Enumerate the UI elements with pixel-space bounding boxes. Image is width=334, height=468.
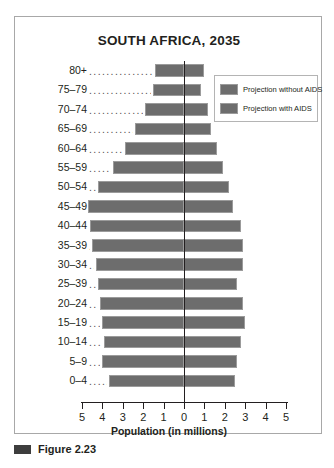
label-dot-leader: ........................................… [89, 119, 133, 138]
age-group-label: 65–69 [15, 119, 87, 138]
bar-projection-with-aids [184, 316, 245, 329]
bar-projection-without-aids [88, 200, 184, 213]
age-group-label: 10–14 [15, 332, 87, 351]
x-axis-tick [286, 402, 287, 409]
chart-legend: Projection without AIDS Projection with … [214, 75, 318, 122]
bar-projection-without-aids [113, 161, 184, 174]
label-dot-leader: ........................................… [89, 294, 98, 313]
bar-projection-without-aids [153, 84, 184, 97]
age-group-label: 25–39 [15, 274, 87, 293]
bar-projection-with-aids [184, 355, 237, 368]
bar-projection-without-aids [155, 64, 184, 77]
bar-projection-with-aids [184, 161, 223, 174]
legend-swatch-icon [220, 103, 238, 114]
x-axis-tick-label: 4 [94, 411, 110, 423]
age-group-label: 60–64 [15, 139, 87, 158]
age-group-label: 0–4 [15, 371, 87, 390]
label-dot-leader: ........................................… [89, 313, 100, 332]
x-axis-tick [143, 402, 144, 409]
pyramid-row: 30–34...................................… [15, 255, 323, 274]
x-axis-tick-label: 5 [74, 411, 90, 423]
x-axis-tick-label: 4 [258, 411, 274, 423]
label-dot-leader: ........................................… [89, 100, 143, 119]
label-dot-leader: ........................................… [89, 352, 100, 371]
label-dot-leader: ........................................… [89, 139, 123, 158]
age-group-label: 70–74 [15, 100, 87, 119]
label-dot-leader: ........................................… [89, 61, 153, 80]
pyramid-row: 50–54...................................… [15, 177, 323, 196]
pyramid-row: 15–19...................................… [15, 313, 323, 332]
x-axis-tick-label: 5 [278, 411, 294, 423]
x-axis-tick-label: 3 [115, 411, 131, 423]
bar-projection-with-aids [184, 181, 229, 194]
label-dot-leader: ........................................… [89, 274, 96, 293]
bar-projection-with-aids [184, 258, 243, 271]
age-group-label: 30–34 [15, 255, 87, 274]
pyramid-row: 40–44...................................… [15, 216, 323, 235]
x-axis-tick [204, 402, 205, 409]
label-dot-leader: ........................................… [89, 371, 107, 390]
bar-projection-without-aids [98, 278, 184, 291]
bar-projection-with-aids [184, 64, 204, 77]
pyramid-row: 55–59...................................… [15, 158, 323, 177]
x-axis-tick-label: 2 [135, 411, 151, 423]
bar-projection-with-aids [184, 142, 217, 155]
age-group-label: 40–44 [15, 216, 87, 235]
x-axis-tick-label: 0 [176, 411, 192, 423]
legend-item-without-aids: Projection without AIDS [220, 81, 313, 97]
bar-projection-with-aids [184, 297, 243, 310]
label-dot-leader: ........................................… [89, 80, 151, 99]
figure-caption: Figure 2.23 [14, 443, 96, 455]
bar-projection-without-aids [100, 297, 184, 310]
bar-projection-without-aids [90, 220, 184, 233]
legend-swatch-icon [220, 84, 238, 95]
bar-projection-without-aids [125, 142, 184, 155]
pyramid-row: 5–9.....................................… [15, 352, 323, 371]
age-group-label: 50–54 [15, 177, 87, 196]
filled-square-icon [14, 445, 31, 454]
bar-projection-with-aids [184, 336, 241, 349]
x-axis-tick-label: 2 [217, 411, 233, 423]
legend-label: Projection without AIDS [243, 85, 322, 94]
x-axis-tick [266, 402, 267, 409]
age-group-label: 15–19 [15, 313, 87, 332]
pyramid-row: 0–4.....................................… [15, 371, 323, 390]
bar-projection-without-aids [92, 239, 184, 252]
bar-projection-with-aids [184, 84, 201, 97]
pyramid-row: 60–64...................................… [15, 139, 323, 158]
pyramid-row: 25–39...................................… [15, 274, 323, 293]
legend-item-with-aids: Projection with AIDS [220, 100, 313, 116]
age-group-label: 35–39 [15, 236, 87, 255]
center-axis-line [184, 61, 185, 402]
x-axis-tick [164, 402, 165, 409]
x-axis-tick-label: 1 [196, 411, 212, 423]
label-dot-leader: ........................................… [89, 236, 90, 255]
bar-projection-with-aids [184, 278, 237, 291]
legend-label: Projection with AIDS [243, 104, 312, 113]
x-axis-tick-label: 3 [237, 411, 253, 423]
label-dot-leader: ........................................… [89, 332, 102, 351]
bar-projection-without-aids [102, 355, 184, 368]
pyramid-row: 35–39...................................… [15, 236, 323, 255]
bar-projection-without-aids [109, 375, 184, 388]
bar-projection-with-aids [184, 239, 243, 252]
x-axis-tick [123, 402, 124, 409]
bar-projection-without-aids [145, 103, 184, 116]
x-axis-tick-labels: 54321012345 [15, 411, 323, 425]
pyramid-row: 65–69...................................… [15, 119, 323, 138]
chart-title: SOUTH AFRICA, 2035 [15, 33, 323, 48]
pyramid-row: 20–24...................................… [15, 294, 323, 313]
pyramid-row: 45–49...................................… [15, 197, 323, 216]
x-axis-tick [245, 402, 246, 409]
age-group-label: 55–59 [15, 158, 87, 177]
bar-projection-without-aids [98, 181, 184, 194]
x-axis-tick [82, 402, 83, 409]
bar-projection-without-aids [102, 316, 184, 329]
bar-projection-without-aids [104, 336, 184, 349]
x-axis-title: Population (in millions) [15, 425, 323, 437]
figure-frame: SOUTH AFRICA, 2035 80+..................… [14, 16, 322, 434]
bar-projection-without-aids [96, 258, 184, 271]
label-dot-leader: ........................................… [89, 158, 111, 177]
x-axis-tick-label: 1 [156, 411, 172, 423]
bar-projection-without-aids [135, 123, 184, 136]
